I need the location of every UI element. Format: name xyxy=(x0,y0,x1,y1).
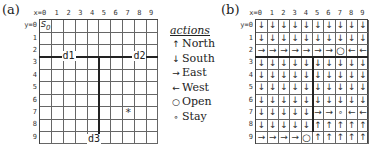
south-action-icon: ↓ xyxy=(170,53,182,67)
grid-cell xyxy=(40,119,52,132)
east-action-icon: → xyxy=(170,67,182,81)
policy-cell: ↓ xyxy=(290,70,302,83)
policy-cell: ↓ xyxy=(358,94,370,107)
panel-a-label: (a) xyxy=(2,2,20,17)
policy-cell: ∘ xyxy=(335,107,347,120)
grid-cell xyxy=(75,107,87,120)
policy-cell: ↓ xyxy=(290,32,302,45)
x-tick: 3 xyxy=(75,9,85,17)
policy-cell: ↓ xyxy=(256,57,268,70)
policy-cell: ↓ xyxy=(358,57,370,70)
policy-cell: ↑ xyxy=(358,132,370,145)
policy-cell: ↓ xyxy=(324,82,336,95)
policy-cell: ↓ xyxy=(346,94,358,107)
y-tick: 9 xyxy=(17,133,37,141)
policy-cell: → xyxy=(279,132,291,145)
y-tick: y=0 xyxy=(233,21,253,29)
grid-cell xyxy=(64,132,76,145)
policy-cell: ↑ xyxy=(313,119,325,132)
open-action-icon: ○ xyxy=(170,96,182,110)
policy-cell: ↓ xyxy=(346,20,358,33)
policy-cell: ↓ xyxy=(256,82,268,95)
policy-cell: ↓ xyxy=(358,70,370,83)
door-label-d2: d2 xyxy=(132,51,146,61)
policy-cell: ↓ xyxy=(358,32,370,45)
y-tick: 5 xyxy=(233,83,253,91)
grid-cell xyxy=(99,32,111,45)
x-tick: 1 xyxy=(267,9,277,17)
policy-cell: ↓ xyxy=(324,70,336,83)
grid-cell xyxy=(99,119,111,132)
policy-cell: ↓ xyxy=(267,107,279,120)
policy-cell: ← xyxy=(346,107,358,120)
grid-cell xyxy=(99,70,111,83)
x-tick: 4 xyxy=(301,9,311,17)
policy-cell: → xyxy=(256,132,268,145)
grid-cell xyxy=(75,32,87,45)
policy-cell: ↑ xyxy=(313,132,325,145)
policy-cell: ↓ xyxy=(335,82,347,95)
x-tick: 8 xyxy=(346,9,356,17)
x-tick: 6 xyxy=(323,9,333,17)
grid-cell xyxy=(123,82,135,95)
policy-cell: ↓ xyxy=(279,20,291,33)
legend-label: North xyxy=(182,37,215,50)
grid-cell xyxy=(111,32,123,45)
grid-cell xyxy=(40,94,52,107)
policy-cell: ↓ xyxy=(290,57,302,70)
grid-cell xyxy=(146,132,158,145)
policy-cell: ↓ xyxy=(346,32,358,45)
policy-cell: ↓ xyxy=(324,57,336,70)
x-tick: 4 xyxy=(87,9,97,17)
policy-cell: ↓ xyxy=(267,82,279,95)
goal-marker-icon: * xyxy=(125,107,131,118)
grid-cell xyxy=(64,107,76,120)
policy-cell: ↓ xyxy=(267,20,279,33)
policy-cell: ↑ xyxy=(324,132,336,145)
y-tick: 2 xyxy=(233,46,253,54)
policy-cell: ↑ xyxy=(324,119,336,132)
policy-cell: ↓ xyxy=(256,94,268,107)
legend-item-stay: ∘Stay xyxy=(170,110,215,125)
grid-cell xyxy=(64,119,76,132)
x-tick: 7 xyxy=(123,9,133,17)
policy-cell: ↓ xyxy=(267,32,279,45)
grid-cell xyxy=(99,82,111,95)
legend-label: West xyxy=(182,81,209,94)
policy-cell: ↓ xyxy=(346,57,358,70)
policy-cell: ↓ xyxy=(313,57,325,70)
policy-cell: ↓ xyxy=(290,94,302,107)
panel-b-label: (b) xyxy=(221,2,239,17)
grid-cell xyxy=(52,94,64,107)
grid-cell xyxy=(134,32,146,45)
vertical-wall xyxy=(312,57,314,131)
policy-cell: → xyxy=(324,107,336,120)
legend-item-open: ○Open xyxy=(170,95,215,110)
x-tick: 6 xyxy=(111,9,121,17)
x-tick: 9 xyxy=(357,9,367,17)
grid-cell xyxy=(146,107,158,120)
grid-cell xyxy=(52,82,64,95)
policy-cell: ↓ xyxy=(256,70,268,83)
grid-cell xyxy=(75,94,87,107)
y-tick: 2 xyxy=(17,46,37,54)
policy-cell: ↑ xyxy=(335,132,347,145)
x-tick: 9 xyxy=(146,9,156,17)
policy-cell: ↓ xyxy=(279,94,291,107)
policy-cell: ↓ xyxy=(267,94,279,107)
legend-item-north: ↑North xyxy=(170,37,215,52)
grid-cell xyxy=(64,70,76,83)
grid-cell xyxy=(111,20,123,33)
policy-cell: ↑ xyxy=(346,119,358,132)
policy-cell: ↓ xyxy=(267,119,279,132)
panel-b-policy-grid: ↓↓↓↓↓↓↓↓↓↓↓↓↓↓↓↓↓↓↓↓→→→→→→→○←←↓↓↓↓↓↓↓↓↓↓… xyxy=(255,19,368,144)
grid-cell xyxy=(146,20,158,33)
grid-cell xyxy=(75,119,87,132)
y-tick: 6 xyxy=(17,96,37,104)
grid-cell xyxy=(111,119,123,132)
x-tick: 1 xyxy=(52,9,62,17)
grid-cell xyxy=(52,20,64,33)
grid-cell xyxy=(64,32,76,45)
grid-cell: s0 xyxy=(40,20,52,33)
legend-item-west: ←West xyxy=(170,81,215,96)
